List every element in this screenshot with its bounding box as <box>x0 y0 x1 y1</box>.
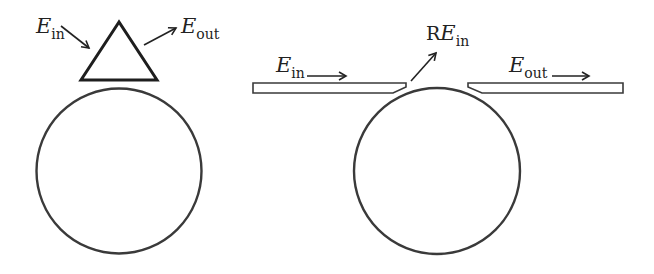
left-input-arrow-icon <box>61 26 89 48</box>
left-output-label: Eout <box>180 14 220 42</box>
input-waveguide <box>253 83 406 93</box>
left-input-label: Ein <box>35 14 65 42</box>
reflected-arrow-icon <box>411 53 436 81</box>
prism-triangle <box>81 22 157 80</box>
right-panel-waveguide-coupler: Ein REin Eout <box>253 21 623 254</box>
left-ring-resonator <box>37 89 202 254</box>
right-input-label: Ein <box>275 53 305 81</box>
left-panel-prism-coupler: Ein Eout <box>35 14 220 254</box>
right-ring-resonator <box>354 88 520 254</box>
output-waveguide <box>468 83 623 93</box>
reflected-label: REin <box>426 21 469 49</box>
ring-resonator-coupling-diagram: Ein Eout Ein REin Eout <box>0 0 654 274</box>
right-output-label: Eout <box>508 53 548 81</box>
left-output-arrow-icon <box>144 28 176 45</box>
